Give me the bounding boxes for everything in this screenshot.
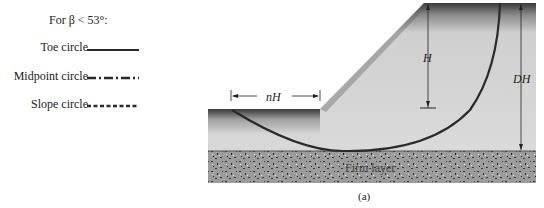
- dh-label: DH: [512, 72, 532, 86]
- figure-caption: (a): [358, 190, 370, 202]
- firm-layer-label: Firm layer: [345, 161, 395, 175]
- h-label: H: [422, 51, 433, 65]
- slope-diagram: Firm layer nH H DH: [0, 0, 544, 208]
- nh-label: nH: [266, 90, 282, 104]
